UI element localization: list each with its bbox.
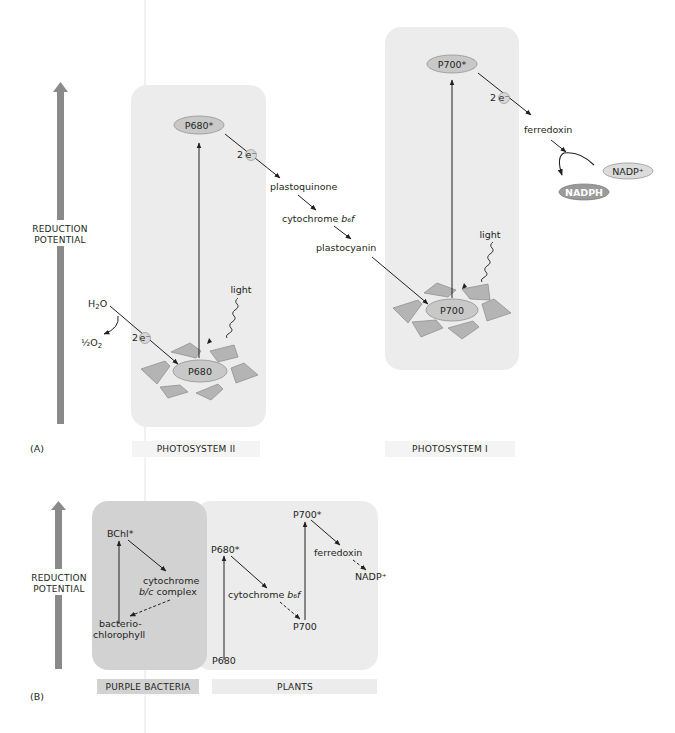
purple-bacteria-caption: PURPLE BACTERIA	[106, 682, 192, 692]
plastoquinone-label: plastoquinone	[270, 181, 338, 192]
nadph-label: NADPH	[565, 187, 603, 198]
cytochrome-bc-rest: complex	[153, 586, 197, 597]
photosystem-ii-caption: PHOTOSYSTEM II	[157, 444, 236, 454]
panel-b-label: (B)	[30, 691, 44, 702]
plants-box	[195, 501, 378, 670]
ferredoxin-to-nadp-arrow	[551, 140, 566, 152]
psii-electron-count-upper: 2	[237, 149, 243, 160]
p700-label: P700	[440, 305, 464, 316]
plants-ferredoxin-label: ferredoxin	[314, 547, 362, 558]
cytochrome-b6f-label: cytochrome b₆f	[282, 213, 356, 224]
cytochrome-bc-italic: b/c	[139, 586, 154, 597]
bacteriochlorophyll-line1: bacterio-	[99, 618, 142, 629]
plants-nadp-label: NADP⁺	[355, 571, 387, 582]
plants-p700-label: P700	[293, 621, 317, 632]
cytochrome-bc-line1: cytochrome	[143, 575, 199, 586]
psii-electron-symbol-upper: e⁻	[246, 149, 257, 160]
nadp-reduction-arrow	[559, 153, 594, 175]
plants-p700-excited-label: P700*	[293, 509, 322, 520]
oxygen-label: ½O2	[81, 337, 102, 350]
panel-b-axis-label-line1: REDUCTION	[31, 573, 87, 583]
photosynthesis-diagram: REDUCTION POTENTIAL P680 P680* light H2O…	[0, 0, 675, 733]
p680-label: P680	[188, 366, 212, 377]
plastoquinone-to-cytochrome-arrow	[298, 195, 316, 210]
plants-caption: PLANTS	[277, 682, 313, 692]
psii-electron-count-lower: 2	[132, 332, 138, 343]
nadp-label: NADP⁺	[612, 166, 644, 177]
psi-electron-count: 2	[490, 92, 496, 103]
ferredoxin-label: ferredoxin	[524, 124, 572, 135]
bacteriochlorophyll-line2: chlorophyll	[93, 629, 145, 640]
photosystem-i-caption: PHOTOSYSTEM I	[412, 444, 488, 454]
cytochrome-to-plastocyanin-arrow	[334, 226, 351, 239]
bchl-excited-label: BChl*	[107, 528, 134, 539]
panel-a: REDUCTION POTENTIAL P680 P680* light H2O…	[30, 27, 653, 457]
panel-b-axis-label-line2: POTENTIAL	[33, 584, 85, 594]
svg-text:b/c complex: b/c complex	[139, 586, 197, 597]
psii-electron-symbol-lower: e⁻	[140, 332, 151, 343]
water-label: H2O	[88, 298, 107, 311]
axis-label-line1: REDUCTION	[32, 224, 88, 234]
oxygen-release-arrow	[104, 316, 118, 334]
plastocyanin-label: plastocyanin	[316, 242, 376, 253]
psii-light-label: light	[230, 284, 251, 295]
psi-light-label: light	[479, 229, 500, 240]
plants-cytochrome-label: cytochrome b₆f	[228, 589, 302, 600]
plants-p680-label: P680	[212, 655, 236, 666]
psi-electron-symbol: e⁻	[499, 92, 510, 103]
panel-b: REDUCTION POTENTIAL BChl* cytochrome b/c…	[30, 501, 387, 702]
plants-p680-excited-label: P680*	[211, 544, 240, 555]
reduction-potential-axis-arrow	[53, 82, 68, 424]
p700-excited-label: P700*	[438, 59, 467, 70]
panel-a-label: (A)	[30, 443, 44, 454]
p680-excited-label: P680*	[185, 120, 214, 131]
axis-label-line2: POTENTIAL	[34, 235, 86, 245]
